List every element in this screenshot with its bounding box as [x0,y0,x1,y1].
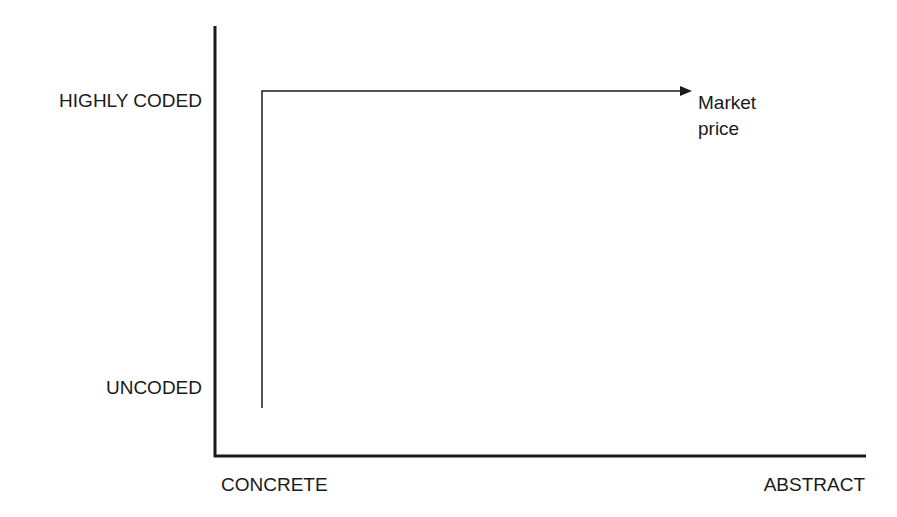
y-axis-bottom-label: UNCODED [0,377,202,399]
x-axis-right-label: ABSTRACT [764,474,865,496]
arrowhead-icon [680,86,692,96]
path-line [262,91,682,408]
x-axis-left-label: CONCRETE [221,474,328,496]
diagram-canvas [0,0,897,517]
path-end-label-line2: price [698,116,756,142]
path-end-label-line1: Market [698,90,756,116]
path-end-label: Market price [698,90,756,142]
y-axis-top-label: HIGHLY CODED [0,90,202,112]
